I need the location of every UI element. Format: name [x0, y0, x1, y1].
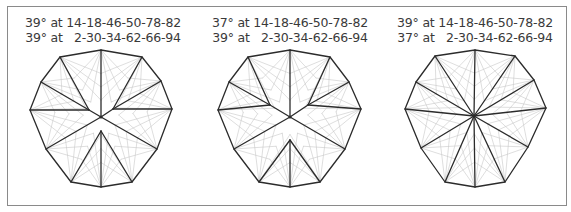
caption-1: 39° at 14-18-46-50-78-82 39° at 2-30-34-…	[8, 15, 198, 45]
caption-1-line-1: 39° at 14-18-46-50-78-82	[8, 15, 198, 30]
caption-2-line-1: 37° at 14-18-46-50-78-82	[195, 15, 385, 30]
caption-3-line-2: 37° at 2-30-34-62-66-94	[380, 30, 570, 45]
panel-2: 37° at 14-18-46-50-78-82 39° at 2-30-34-…	[195, 0, 385, 212]
caption-3: 39° at 14-18-46-50-78-82 37° at 2-30-34-…	[380, 15, 570, 45]
caption-3-line-1: 39° at 14-18-46-50-78-82	[380, 15, 570, 30]
panel-1: 39° at 14-18-46-50-78-82 39° at 2-30-34-…	[8, 0, 198, 212]
caption-1-line-2: 39° at 2-30-34-62-66-94	[8, 30, 198, 45]
caption-2-line-2: 39° at 2-30-34-62-66-94	[195, 30, 385, 45]
panel-3: 39° at 14-18-46-50-78-82 37° at 2-30-34-…	[380, 0, 570, 212]
caption-2: 37° at 14-18-46-50-78-82 39° at 2-30-34-…	[195, 15, 385, 45]
